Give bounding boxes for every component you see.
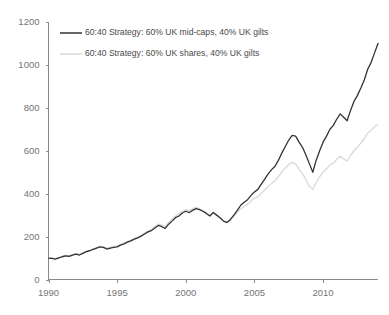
y-tick-label: 800 [24,102,40,113]
x-tick-label: 1995 [107,287,128,298]
y-tick-label: 1200 [18,16,39,27]
x-tick-group: 19901995200020052010 [38,280,334,298]
y-tick-label: 0 [34,274,39,285]
line-chart: 020040060080010001200 199019952000200520… [0,0,389,315]
y-tick-label: 1000 [18,59,39,70]
y-tick-label: 400 [24,188,40,199]
series-line [49,43,379,259]
data-series-group [49,43,379,259]
y-tick-group: 020040060080010001200 [18,16,48,285]
x-tick-label: 2005 [244,287,265,298]
y-tick-label: 200 [24,231,40,242]
series-line [49,125,379,259]
legend-label: 60:40 Strategy: 60% UK shares, 40% UK gi… [85,48,259,58]
x-tick-label: 2010 [313,287,334,298]
legend-label: 60:40 Strategy: 60% UK mid-caps, 40% UK … [85,27,268,37]
chart-legend: 60:40 Strategy: 60% UK mid-caps, 40% UK … [60,27,268,58]
y-tick-label: 600 [24,145,40,156]
x-tick-label: 2000 [175,287,196,298]
x-tick-label: 1990 [38,287,59,298]
chart-container: 020040060080010001200 199019952000200520… [0,0,389,315]
